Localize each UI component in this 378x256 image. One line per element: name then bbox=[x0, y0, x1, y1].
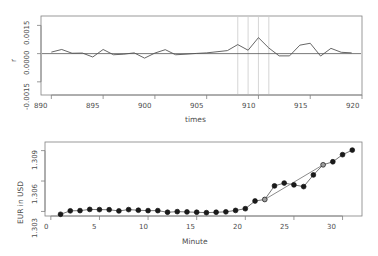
bottom-plot-box bbox=[45, 142, 362, 216]
bottom-data-point-highlighted bbox=[321, 162, 326, 167]
bottom-data-point bbox=[272, 183, 277, 188]
top-plot-canvas bbox=[0, 0, 378, 128]
bottom-data-point bbox=[146, 208, 151, 213]
bottom-data-point bbox=[243, 206, 248, 211]
bottom-data-point bbox=[117, 209, 122, 214]
bottom-plot-canvas bbox=[0, 128, 378, 256]
bottom-data-point bbox=[97, 207, 102, 212]
bottom-data-point bbox=[253, 199, 258, 204]
bottom-data-point bbox=[350, 148, 355, 153]
bottom-data-point bbox=[194, 210, 199, 215]
bottom-data-point bbox=[311, 173, 316, 178]
top-series-line bbox=[51, 38, 351, 59]
bottom-data-point-highlighted bbox=[262, 197, 267, 202]
bottom-data-point bbox=[107, 207, 112, 212]
bottom-data-point bbox=[136, 208, 141, 213]
bottom-data-point bbox=[155, 208, 160, 213]
panel-bottom-eurusd: 1.309 1.306 1.303 EUR in USD 0 5 10 15 2… bbox=[0, 128, 378, 256]
bottom-data-point bbox=[340, 152, 345, 157]
bottom-data-point bbox=[330, 159, 335, 164]
bottom-data-point bbox=[58, 212, 63, 217]
bottom-data-point bbox=[87, 207, 92, 212]
bottom-data-point bbox=[68, 208, 73, 213]
bottom-data-point bbox=[301, 184, 306, 189]
bottom-data-point bbox=[292, 182, 297, 187]
bottom-data-point bbox=[185, 210, 190, 215]
bottom-data-point bbox=[126, 207, 131, 212]
panel-top-returns: 0.0015 0.0000 -0.0015 r 890 895 900 905 … bbox=[0, 0, 378, 128]
bottom-data-point bbox=[204, 210, 209, 215]
bottom-data-point bbox=[214, 210, 219, 215]
bottom-series-line bbox=[61, 150, 353, 214]
bottom-data-point bbox=[233, 208, 238, 213]
figure-root: 0.0015 0.0000 -0.0015 r 890 895 900 905 … bbox=[0, 0, 378, 256]
bottom-data-point bbox=[223, 209, 228, 214]
bottom-data-point bbox=[78, 208, 83, 213]
bottom-data-point bbox=[282, 181, 287, 186]
bottom-data-point bbox=[175, 209, 180, 214]
bottom-data-point bbox=[165, 210, 170, 215]
